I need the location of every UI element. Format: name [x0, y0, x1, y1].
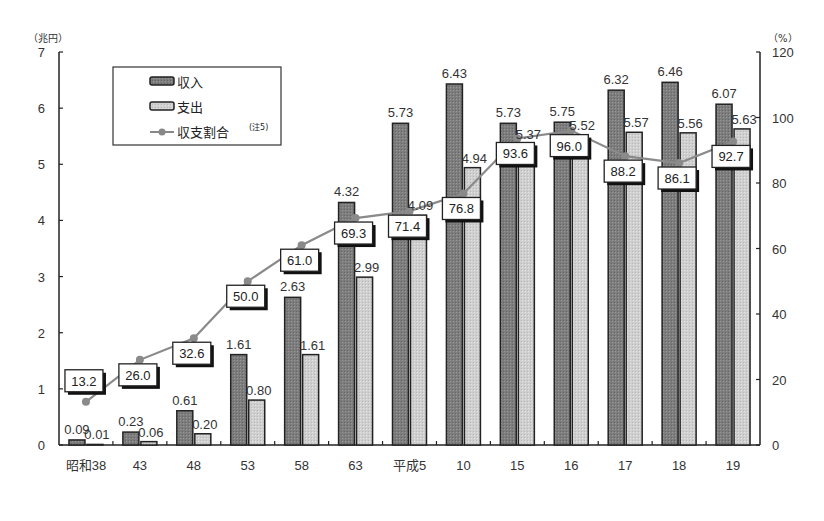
ratio-value-label: 96.0: [557, 139, 582, 154]
ratio-marker: [298, 241, 306, 249]
category-label: 48: [187, 458, 201, 473]
expense-value-label: 4.94: [462, 151, 487, 166]
income-value-label: 2.63: [280, 279, 305, 294]
expense-value-label: 5.56: [677, 116, 702, 131]
legend-ratio-note: (注5): [249, 122, 268, 132]
ratio-value-label: 69.3: [341, 226, 366, 241]
income-value-label: 5.73: [388, 105, 413, 120]
expense-value-label: 5.57: [624, 115, 649, 130]
expense-value-label: 0.80: [246, 383, 271, 398]
income-bar: [393, 123, 409, 445]
expense-value-label: 5.63: [731, 112, 756, 127]
right-tick-label: 20: [772, 373, 786, 388]
legend: 収入 支出 収支割合 (注5): [113, 67, 281, 145]
expense-value-label: 2.99: [354, 260, 379, 275]
category-label: 58: [294, 458, 308, 473]
income-bar: [554, 122, 570, 445]
category-label: 10: [456, 458, 470, 473]
ratio-value-label: 26.0: [125, 368, 150, 383]
ratio-marker: [190, 334, 198, 342]
category-label: 63: [348, 458, 362, 473]
income-value-label: 5.75: [550, 104, 575, 119]
left-tick-label: 3: [38, 270, 45, 285]
category-label: 昭和38: [66, 458, 106, 473]
ratio-value-label: 61.0: [287, 253, 312, 268]
income-bar: [500, 123, 516, 445]
left-tick-label: 5: [38, 157, 45, 172]
income-swatch-icon: [150, 77, 174, 85]
ratio-value-label: 32.6: [179, 346, 204, 361]
left-axis-unit: （兆円）: [28, 33, 68, 44]
income-bar: [608, 90, 624, 445]
expense-value-label: 4.09: [408, 198, 433, 213]
category-label: 16: [564, 458, 578, 473]
expense-bar: [303, 355, 319, 445]
ratio-marker: [244, 277, 252, 285]
left-tick-label: 2: [38, 326, 45, 341]
category-label: 15: [510, 458, 524, 473]
left-tick-label: 0: [38, 438, 45, 453]
ratio-value-label: 76.8: [449, 201, 474, 216]
expense-value-label: 0.06: [138, 425, 163, 440]
expense-bar: [87, 444, 103, 445]
expense-bar: [141, 442, 157, 445]
income-bar: [446, 84, 462, 445]
category-label: 43: [133, 458, 147, 473]
expense-value-label: 5.52: [570, 118, 595, 133]
legend-income-label: 収入: [177, 75, 203, 90]
left-tick-label: 7: [38, 45, 45, 60]
category-label: 平成5: [393, 458, 426, 473]
expense-bar: [357, 277, 373, 445]
expense-bar: [249, 400, 265, 445]
ratio-value-label: 92.7: [718, 149, 743, 164]
ratio-marker: [136, 356, 144, 364]
left-tick-label: 1: [38, 382, 45, 397]
income-value-label: 6.07: [711, 86, 736, 101]
category-label: 53: [240, 458, 254, 473]
right-tick-label: 40: [772, 307, 786, 322]
income-value-label: 4.32: [334, 184, 359, 199]
ratio-marker: [729, 137, 737, 145]
ratio-value-label: 88.2: [611, 164, 636, 179]
ratio-value-label: 71.4: [395, 219, 420, 234]
income-value-label: 0.61: [172, 393, 197, 408]
right-tick-label: 120: [772, 45, 794, 60]
left-tick-label: 4: [38, 213, 45, 228]
expense-bar: [195, 434, 211, 445]
right-tick-label: 0: [772, 438, 779, 453]
income-value-label: 6.32: [604, 72, 629, 87]
expense-bar: [734, 129, 750, 445]
ratio-marker: [459, 189, 467, 197]
right-axis-unit: （%）: [768, 33, 798, 44]
category-label: 18: [672, 458, 686, 473]
ratio-value-label: 50.0: [233, 289, 258, 304]
ratio-marker: [352, 214, 360, 222]
ratio-value-label: 86.1: [664, 171, 689, 186]
income-bar: [69, 440, 85, 445]
income-bar: [177, 411, 193, 445]
legend-ratio-label: 収支割合: [177, 125, 229, 140]
expense-swatch-icon: [150, 102, 174, 110]
expense-value-label: 0.20: [192, 417, 217, 432]
income-value-label: 6.46: [657, 64, 682, 79]
income-bar: [662, 82, 678, 445]
right-tick-label: 100: [772, 111, 794, 126]
income-bar: [285, 297, 301, 445]
income-value-label: 5.73: [496, 105, 521, 120]
expense-value-label: 1.61: [300, 338, 325, 353]
expense-bar: [518, 144, 534, 445]
ratio-marker: [621, 152, 629, 160]
income-expense-chart: （兆円） （%） 01234567020406080100120昭和384348…: [0, 0, 824, 521]
ratio-marker: [82, 398, 90, 406]
right-tick-label: 60: [772, 242, 786, 257]
income-value-label: 6.43: [442, 66, 467, 81]
ratio-value-label: 93.6: [503, 146, 528, 161]
category-label: 19: [726, 458, 740, 473]
income-value-label: 1.61: [226, 337, 251, 352]
ratio-value-label: 13.2: [71, 374, 96, 389]
left-tick-label: 6: [38, 101, 45, 116]
expense-bar: [572, 135, 588, 445]
expense-value-label: 5.37: [516, 127, 541, 142]
expense-value-label: 0.01: [84, 427, 109, 442]
income-bar: [231, 355, 247, 445]
